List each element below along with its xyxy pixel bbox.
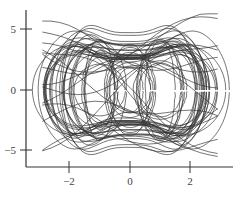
y-ticks: 5 0 −5: [4, 23, 32, 156]
y-tick-label-neg5: −5: [4, 144, 16, 156]
y-tick-label-0: 0: [11, 84, 17, 96]
x-tick-label-0: 0: [127, 175, 133, 187]
plot-area: [32, 14, 229, 157]
x-tick-label-neg2: −2: [63, 175, 75, 187]
y-tick-label-5: 5: [11, 23, 17, 35]
x-tick-label-2: 2: [187, 175, 193, 187]
trajectory-line: [32, 14, 229, 157]
phase-portrait-chart: 5 0 −5 −2 0 2: [0, 0, 244, 197]
x-ticks: −2 0 2: [63, 161, 193, 187]
